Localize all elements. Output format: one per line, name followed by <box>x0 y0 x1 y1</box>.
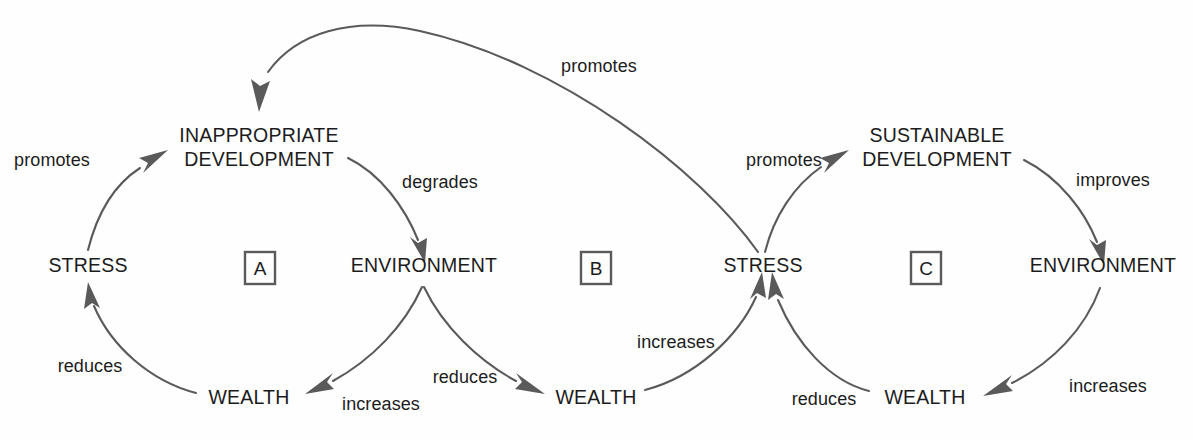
arrow-head-icon <box>515 373 545 394</box>
edge-path <box>765 167 821 252</box>
node-stress-left: STRESS <box>48 254 127 276</box>
arrow-head-icon <box>983 375 1013 396</box>
edge-label-improves: improves <box>1076 170 1150 190</box>
edge-stress-left-to-inappropriate-development: promotes <box>14 150 168 250</box>
edge-label-promotes-top: promotes <box>561 56 637 76</box>
edge-label-reduces-c: reduces <box>792 389 857 409</box>
node-environment-left: ENVIRONMENT <box>351 254 497 276</box>
edge-path <box>333 287 422 381</box>
loop-marker-b: B <box>581 252 611 284</box>
edge-path <box>348 158 418 240</box>
edge-environment-left-to-wealth-middle: reduces <box>424 287 545 394</box>
edge-path <box>94 306 196 393</box>
edge-path <box>88 168 140 250</box>
loop-marker-a: A <box>245 252 275 284</box>
arrow-head-icon <box>305 373 334 394</box>
arrow-head-icon <box>139 150 168 173</box>
node-sustainable-development-line2: DEVELOPMENT <box>862 148 1012 170</box>
edge-label-reduces-b: reduces <box>433 367 498 387</box>
node-stress-middle: STRESS <box>723 254 802 276</box>
edge-label-reduces-a: reduces <box>58 356 123 376</box>
node-wealth-left: WEALTH <box>208 386 289 408</box>
edge-wealth-left-to-stress-left: reduces <box>58 282 196 393</box>
loop-letter-c: C <box>919 258 933 279</box>
edge-label-promotes-left: promotes <box>14 150 90 170</box>
edge-label-increases-c: increases <box>1069 376 1147 396</box>
node-environment-right: ENVIRONMENT <box>1030 254 1176 276</box>
arrow-head-icon <box>768 272 784 300</box>
edge-label-increases-b: increases <box>637 332 715 352</box>
loop-letter-b: B <box>590 258 603 279</box>
loop-marker-c: C <box>911 252 941 284</box>
loop-letter-a: A <box>254 258 267 279</box>
edge-wealth-right-to-stress-middle: reduces <box>768 272 869 409</box>
causal-loop-diagram: promotes degrades increases reduces redu… <box>0 0 1193 440</box>
arrow-head-icon <box>820 150 849 173</box>
edge-stress-middle-to-sustainable-development: promotes <box>746 150 849 252</box>
diagram-canvas: promotes degrades increases reduces redu… <box>0 0 1193 440</box>
edge-environment-right-to-wealth-right: increases <box>983 288 1147 396</box>
node-inappropriate-development-line2: DEVELOPMENT <box>184 148 334 170</box>
arrow-head-icon <box>251 79 270 112</box>
edge-inappropriate-development-to-environment-left: degrades <box>348 158 478 263</box>
arrow-head-icon <box>84 282 100 309</box>
edge-environment-left-to-wealth-left: increases <box>305 287 422 414</box>
edge-path <box>1012 288 1100 383</box>
edge-path <box>268 26 758 252</box>
edge-label-degrades: degrades <box>402 172 478 192</box>
node-inappropriate-development-line1: INAPPROPRIATE <box>179 124 338 146</box>
edge-label-promotes-right: promotes <box>746 150 822 170</box>
node-sustainable-development-line1: SUSTAINABLE <box>869 124 1004 146</box>
node-wealth-right: WEALTH <box>884 386 965 408</box>
edge-sustainable-development-to-environment-right: improves <box>1024 160 1150 265</box>
node-wealth-middle: WEALTH <box>555 386 636 408</box>
edge-label-increases-a: increases <box>342 394 420 414</box>
edge-path <box>778 300 869 391</box>
edge-wealth-middle-to-stress-middle: increases <box>637 272 766 390</box>
arrow-head-icon <box>750 272 766 299</box>
